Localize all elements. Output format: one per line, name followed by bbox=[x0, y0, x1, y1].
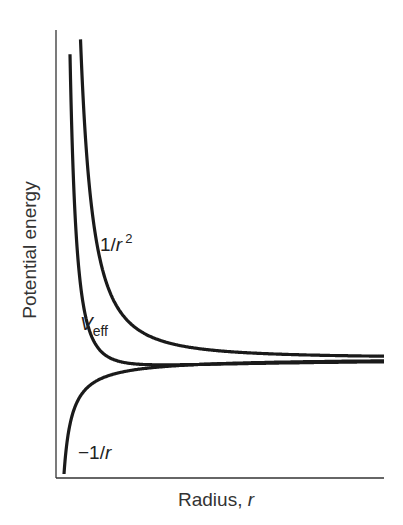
potential-energy-chart bbox=[0, 0, 403, 525]
label-effective-potential: Veff bbox=[80, 313, 108, 335]
x-axis-label: Radius, r bbox=[178, 489, 254, 511]
label-negative-inverse-r: −1/r bbox=[78, 442, 111, 464]
label-inverse-r-squared-variable: r bbox=[116, 234, 122, 255]
label-inverse-r-squared-text: 1/ bbox=[100, 234, 116, 255]
label-veff-symbol: V bbox=[80, 313, 93, 334]
label-negative-inverse-r-text: −1/ bbox=[78, 442, 105, 463]
label-negative-inverse-r-variable: r bbox=[105, 442, 111, 463]
label-inverse-r-squared: 1/r2 bbox=[100, 234, 132, 256]
curve-effective-potential bbox=[70, 54, 384, 365]
curve-inverse-r-squared bbox=[81, 39, 385, 356]
label-inverse-r-squared-exponent: 2 bbox=[125, 231, 132, 246]
y-axis-label: Potential energy bbox=[19, 181, 41, 318]
x-axis-label-text: Radius, bbox=[178, 489, 248, 510]
curve-negative-inverse-r bbox=[64, 361, 384, 474]
label-veff-subscript: eff bbox=[93, 323, 108, 339]
x-axis-label-variable: r bbox=[248, 489, 254, 510]
